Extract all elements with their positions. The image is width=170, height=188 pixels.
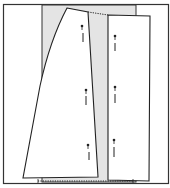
- pattern-layout-diagram: Pattern pieces pinned on folded fabric: [0, 0, 170, 188]
